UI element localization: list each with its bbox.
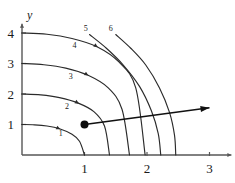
y-axis-tick-labels: 1234 [8, 26, 15, 133]
x-tick-label: 1 [81, 161, 88, 176]
level-curve-6 [116, 35, 176, 155]
y-axis-arrowhead [20, 24, 24, 28]
level-curve-label-6: 6 [109, 24, 113, 33]
gradient-vector-group [85, 106, 210, 125]
level-curve-label-2: 2 [65, 102, 69, 111]
y-tick-label: 2 [8, 87, 15, 102]
y-tick-label: 3 [8, 56, 15, 71]
level-curve-3 [22, 64, 130, 156]
level-curve-label-5: 5 [84, 24, 88, 33]
level-curve-1 [22, 125, 85, 156]
level-curve-label-1: 1 [59, 129, 63, 138]
x-tick-label: 2 [144, 161, 151, 176]
gradient-vector-shaft [85, 108, 210, 125]
y-tick-label: 1 [8, 117, 15, 132]
evaluation-point-dot [81, 121, 89, 129]
level-curve-label-3: 3 [69, 72, 73, 81]
level-curves-group [22, 33, 176, 155]
x-tick-label: 3 [206, 161, 213, 176]
x-axis-arrowhead [227, 153, 231, 157]
level-curve-5 [90, 35, 161, 155]
y-tick-label: 4 [8, 26, 15, 41]
level-curve-label-4: 4 [73, 41, 77, 50]
figure-canvas: 123 1234 x y 123456 [0, 0, 235, 183]
x-axis-tick-labels: 123 [81, 161, 213, 176]
gradient-vector-arrowhead [200, 106, 209, 112]
y-axis-label: y [26, 8, 33, 22]
